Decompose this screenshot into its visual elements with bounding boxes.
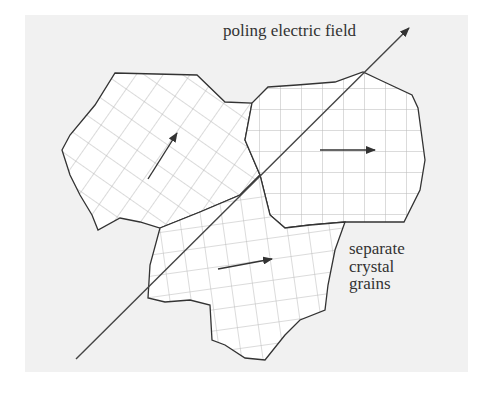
grains-label-line-1: separate — [349, 240, 405, 258]
grains-label-line-3: grains — [349, 275, 405, 293]
grains-label-line-2: crystal — [349, 258, 405, 276]
grains-label: separate crystal grains — [349, 240, 405, 293]
poling-field-label: poling electric field — [223, 22, 356, 39]
diagram-canvas — [0, 0, 487, 394]
